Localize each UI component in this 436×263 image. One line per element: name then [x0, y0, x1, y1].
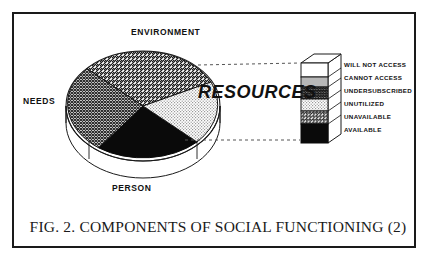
bar-legend-available: AVAILABLE: [344, 126, 382, 133]
pie-label-environment: ENVIRONMENT: [131, 27, 200, 37]
figure-root: ENVIRONMENT NEEDS PERSON RESOURCES WILL …: [0, 0, 436, 263]
bar-segment-will-not-access: [301, 63, 328, 77]
pie-top-face: [68, 51, 218, 158]
bar-legend-unavailable: UNAVAILABLE: [344, 113, 391, 120]
bar-side-face: [328, 54, 341, 143]
bar-segment-unavailable: [301, 111, 328, 124]
figure-caption: FIG. 2. COMPONENTS OF SOCIAL FUNCTIONING…: [0, 218, 436, 236]
bar-segment-available: [301, 124, 328, 143]
pie-label-needs: NEEDS: [23, 96, 55, 106]
pie-label-person: PERSON: [112, 183, 152, 193]
leader-line-top: [198, 63, 300, 65]
bar-legend-undersubscribed: UNDERSUBSCRIBED: [344, 87, 412, 94]
bar-legend-unutilized: UNUTILIZED: [344, 100, 384, 107]
bar-legend-will-not-access: WILL NOT ACCESS: [344, 61, 406, 68]
pie-label-resources: RESOURCES: [198, 82, 317, 103]
bar-legend-cannot-access: CANNOT ACCESS: [344, 74, 402, 81]
